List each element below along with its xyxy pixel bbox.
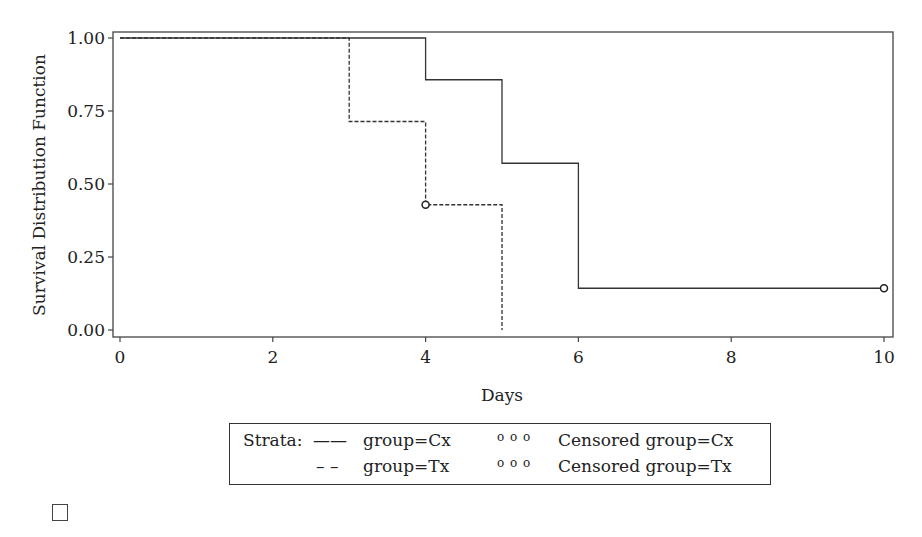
y-axis-title: Survival Distribution Function	[29, 54, 49, 316]
censor-marker-icon	[422, 201, 429, 208]
plot-frame	[113, 32, 893, 337]
x-axis-title: Days	[481, 385, 523, 405]
legend-cx-censor-label: Censored group=Cx	[558, 430, 733, 450]
legend: Strata: —— group=Cx o o o Censored group…	[229, 423, 771, 485]
curve-group-tx	[120, 38, 502, 330]
y-tick-label: 0.25	[67, 247, 105, 267]
legend-title: Strata:	[243, 430, 302, 450]
legend-tx-censor-icon: o o o	[497, 456, 531, 470]
legend-tx-censor-label: Censored group=Tx	[558, 456, 732, 476]
y-tick-label: 0.00	[67, 320, 105, 340]
x-axis: 0246810	[115, 337, 895, 367]
x-tick-label: 6	[573, 347, 584, 367]
y-tick-label: 0.50	[67, 174, 105, 194]
censor-marker-icon	[881, 285, 888, 292]
x-tick-label: 4	[420, 347, 431, 367]
x-tick-label: 0	[115, 347, 126, 367]
y-tick-label: 1.00	[67, 28, 105, 48]
survival-curves	[120, 38, 888, 330]
legend-cx-censor-icon: o o o	[497, 430, 531, 444]
x-tick-label: 8	[726, 347, 737, 367]
x-tick-label: 10	[873, 347, 895, 367]
legend-cx-line-symbol: ——	[313, 430, 347, 450]
legend-cx-label: group=Cx	[363, 430, 451, 450]
y-axis: 0.000.250.500.751.00	[67, 28, 113, 340]
legend-tx-label: group=Tx	[363, 456, 449, 476]
y-tick-label: 0.75	[67, 101, 105, 121]
checkbox-square-icon	[52, 504, 68, 521]
x-tick-label: 2	[267, 347, 278, 367]
legend-tx-line-symbol: – –	[316, 456, 338, 476]
